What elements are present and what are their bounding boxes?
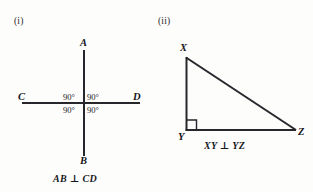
point-label-c: C — [18, 92, 25, 103]
vertex-label-z: Z — [298, 127, 304, 138]
angle-label-top-left: 90° — [63, 93, 75, 102]
line-segment-cd — [22, 102, 140, 104]
figure-index-i: (i) — [14, 16, 24, 26]
right-triangle-xyz-drawing — [156, 0, 313, 192]
caption-ab-perp-cd: AB ⊥ CD — [53, 174, 97, 184]
vertex-label-y: Y — [178, 132, 184, 143]
point-label-b: B — [80, 156, 87, 167]
angle-label-bottom-left: 90° — [63, 106, 75, 115]
vertex-label-x: X — [180, 43, 187, 54]
point-label-a: A — [80, 38, 87, 49]
angle-label-top-right: 90° — [87, 93, 99, 102]
triangle-side-xz — [186, 58, 296, 131]
angle-label-bottom-right: 90° — [87, 106, 99, 115]
caption-xy-perp-yz: XY ⊥ YZ — [204, 141, 245, 151]
figure-panel-i: (i) A B C D 90° 90° 90° 90° AB ⊥ CD — [0, 0, 156, 192]
point-label-d: D — [133, 92, 141, 103]
figure-page: (i) A B C D 90° 90° 90° 90° AB ⊥ CD (ii)… — [0, 0, 313, 192]
right-angle-marker-icon — [187, 120, 197, 130]
figure-panel-ii: (ii) X Y Z XY ⊥ YZ — [156, 0, 313, 192]
